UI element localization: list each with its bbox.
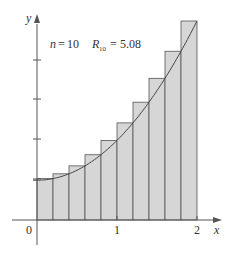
svg-text:=: =: [110, 37, 117, 51]
rectangle: [69, 166, 85, 220]
x-tick-label-0: 0: [26, 223, 32, 237]
x-tick-label-1: 1: [114, 223, 120, 237]
rectangle: [181, 21, 197, 220]
svg-text:10: 10: [99, 45, 107, 53]
y-axis-arrow-icon: [34, 14, 40, 23]
x-tick-label-2: 2: [194, 223, 200, 237]
annotation: n = 10 R 10 = 5.08: [50, 37, 141, 53]
rectangle: [53, 174, 69, 220]
svg-text:n: n: [50, 37, 56, 51]
riemann-sum-chart: y x 0 1 2 n = 10 R 10 = 5.08: [0, 0, 235, 256]
y-axis-label: y: [25, 11, 32, 25]
svg-text:10: 10: [67, 37, 79, 51]
x-axis-label: x: [213, 223, 220, 237]
svg-text:5.08: 5.08: [120, 37, 141, 51]
rectangle: [165, 51, 181, 220]
rectangle: [37, 179, 53, 220]
svg-text:=: =: [58, 37, 65, 51]
